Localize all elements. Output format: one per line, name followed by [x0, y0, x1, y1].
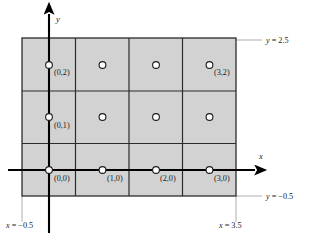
point-marker[interactable] [153, 114, 160, 121]
boundary-value-x-left: −0.5 [18, 221, 33, 230]
lattice-grid-figure: x y (0,2) (3,2) (0,1) (0,0) (1,0) (2,0) … [0, 0, 311, 248]
point-marker[interactable] [206, 62, 213, 69]
boundary-op-y-top: = [270, 36, 279, 45]
point-marker[interactable] [46, 167, 53, 174]
point-marker[interactable] [99, 62, 106, 69]
boundary-value-y-bottom: −0.5 [278, 192, 293, 201]
point-label-0-2: (0,2) [54, 68, 70, 77]
boundary-value-x-right: 3.5 [231, 221, 241, 230]
point-marker[interactable] [46, 114, 53, 121]
point-label-2-0: (2,0) [160, 174, 176, 183]
boundary-value-y-top: 2.5 [278, 36, 288, 45]
point-marker[interactable] [99, 167, 106, 174]
boundary-label-x-right: x = 3.5 [218, 221, 242, 230]
point-label-0-0: (0,0) [54, 174, 70, 183]
point-marker[interactable] [153, 167, 160, 174]
boundary-op-x-right: = [223, 221, 232, 230]
point-marker[interactable] [206, 167, 213, 174]
point-marker[interactable] [153, 62, 160, 69]
point-label-1-0: (1,0) [107, 174, 123, 183]
boundary-label-y-top: y = 2.5 [265, 36, 289, 45]
point-marker[interactable] [46, 62, 53, 69]
boundary-op-x-left: = [10, 221, 19, 230]
x-axis-label: x [258, 151, 263, 161]
point-marker[interactable] [206, 114, 213, 121]
point-label-3-2: (3,2) [214, 68, 230, 77]
boundary-label-x-left: x = −0.5 [5, 221, 33, 230]
figure-canvas: x y (0,2) (3,2) (0,1) (0,0) (1,0) (2,0) … [0, 0, 311, 248]
point-label-0-1: (0,1) [54, 121, 70, 130]
point-marker[interactable] [99, 114, 106, 121]
y-axis-label: y [55, 14, 60, 24]
point-label-3-0: (3,0) [214, 174, 230, 183]
boundary-label-y-bottom: y = −0.5 [265, 192, 293, 201]
boundary-op-y-bottom: = [270, 192, 279, 201]
